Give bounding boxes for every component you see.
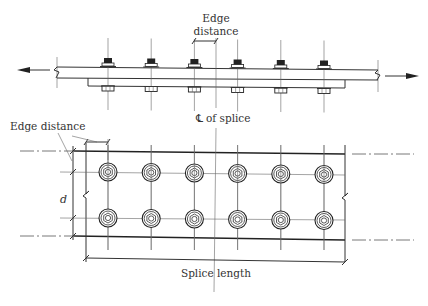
arrow-left-icon [17, 67, 50, 73]
splice-length-dimension [83, 255, 348, 265]
bolt-plan-icon [142, 145, 160, 250]
bolt-plan-icon [315, 145, 333, 250]
bolt-plan-icon [185, 145, 203, 250]
plate-left-end [83, 143, 89, 262]
bolt-plan-icon [272, 145, 290, 250]
plate-right-end [342, 145, 348, 262]
centerline-label: of splice [206, 112, 250, 124]
centerline-symbol: ℄ [195, 112, 203, 124]
splice-diagram: Edge distance ℄ of splice d [0, 0, 428, 306]
bolt-elevation-icon [230, 40, 246, 112]
bolt-elevation-icon [186, 39, 202, 111]
bolt-elevation-icon [273, 40, 289, 112]
edge-distance-label-line2: distance [194, 25, 239, 37]
edge-distance-dimension-plan [58, 133, 110, 161]
plate-bottom-edge [74, 236, 345, 240]
plan-view: d Edge distance Splice length [10, 120, 414, 292]
arrow-right-icon [385, 73, 419, 79]
bolt-elevation-icon [100, 38, 116, 110]
edge-distance-label-line1: Edge [202, 12, 229, 24]
elevation-view: Edge distance [17, 12, 419, 113]
bolt-elevation-icon [316, 41, 332, 113]
gauge-dimension [70, 146, 76, 240]
edge-distance-dimension-top [192, 38, 218, 44]
bolt-plan-icon [229, 145, 247, 250]
plate-top-edge [74, 151, 345, 154]
edge-distance-label-plan: Edge distance [10, 120, 85, 132]
bolt-elevation-icon [143, 39, 159, 111]
bolt-plan-icon [99, 145, 117, 250]
gauge-label: d [60, 193, 67, 206]
splice-length-label: Splice length [181, 267, 251, 279]
